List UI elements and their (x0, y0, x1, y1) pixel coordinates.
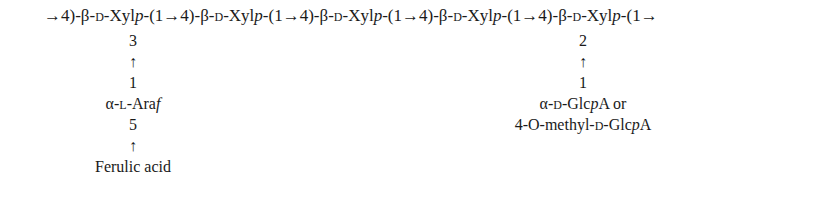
end-arrow: → (641, 6, 658, 25)
methyl-glucuronic-acid-label: 4-O-methyl-D-GlcpA (483, 114, 683, 135)
substituent-position: 5 (33, 114, 233, 135)
xyl-unit-5: →4)-β-D-Xylp-(1 (521, 6, 640, 25)
up-arrow-icon: ↑ (33, 135, 233, 156)
anomeric-position: 1 (33, 72, 233, 93)
start-arrow: → (44, 6, 61, 25)
xylan-backbone: →4)-β-D-Xylp-(1→4)-β-D-Xylp-(1→4)-β-D-Xy… (44, 5, 658, 28)
xyl-unit-1: 4)-β-D-Xylp-(1 (61, 6, 163, 25)
up-arrow-icon: ↑ (483, 51, 683, 72)
xyl-unit-3: →4)-β-D-Xylp-(1 (283, 6, 402, 25)
up-arrow-icon: ↑ (33, 51, 233, 72)
glucuronic-acid-label: α-D-GlcpA or (483, 93, 683, 114)
xyl-unit-4: →4)-β-D-Xylp-(1 (402, 6, 521, 25)
attach-position: 2 (483, 30, 683, 51)
ferulic-acid-label: Ferulic acid (33, 156, 233, 177)
arabinose-branch: 3 ↑ 1 α-L-Araf 5 ↑ Ferulic acid (33, 30, 233, 177)
arabinofuranose-label: α-L-Araf (33, 93, 233, 114)
xyl-unit-2: →4)-β-D-Xylp-(1 (163, 6, 282, 25)
attach-position: 3 (33, 30, 233, 51)
anomeric-position: 1 (483, 72, 683, 93)
glucuronic-branch: 2 ↑ 1 α-D-GlcpA or 4-O-methyl-D-GlcpA (483, 30, 683, 135)
